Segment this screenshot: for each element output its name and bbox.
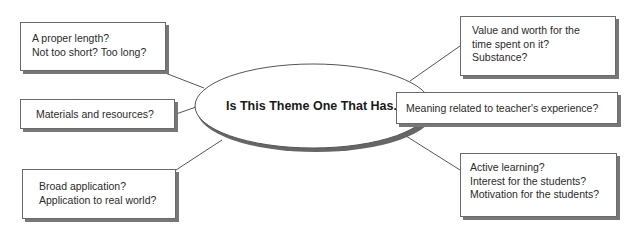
node-active: Active learning? Interest for the studen… — [460, 153, 617, 217]
node-text: time spent on it? — [472, 38, 615, 52]
node-text: Materials and resources? — [36, 108, 174, 122]
node-value: Value and worth for the time spent on it… — [460, 16, 616, 76]
node-text: Motivation for the students? — [470, 188, 616, 202]
node-length: A proper length? Not too short? Too long… — [20, 22, 166, 71]
node-text: Application to real world? — [39, 194, 175, 208]
node-text: Interest for the students? — [470, 175, 616, 189]
node-text: A proper length? — [32, 32, 165, 46]
node-text: Substance? — [472, 51, 615, 65]
node-meaning: Meaning related to teacher's experience? — [396, 92, 618, 124]
connector-materials — [176, 107, 196, 114]
node-application: Broad application? Application to real w… — [22, 169, 176, 219]
node-text: Value and worth for the — [472, 24, 615, 38]
node-text: Active learning? — [470, 161, 616, 175]
node-text: Broad application? — [39, 180, 175, 194]
node-text: Meaning related to teacher's experience? — [406, 102, 617, 116]
node-text: Not too short? Too long? — [32, 46, 165, 60]
node-materials: Materials and resources? — [20, 99, 175, 129]
